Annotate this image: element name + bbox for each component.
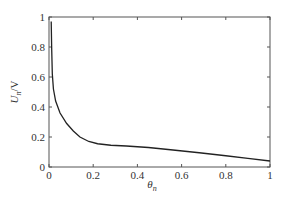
x-tick-label: 0.6 [175, 169, 189, 181]
plot-area [49, 17, 270, 167]
x-axis-label: θn [147, 178, 156, 193]
y-tick-label: 0.4 [31, 101, 45, 113]
x-tick-label: 0 [46, 169, 52, 181]
x-tick-label: 0.4 [131, 169, 145, 181]
y-tick-label: 1 [40, 11, 46, 23]
line-chart: 00.20.40.60.81 00.20.40.60.81 θn Un/V [0, 0, 285, 203]
x-tick-label: 0.2 [86, 169, 100, 181]
y-tick-label: 0 [40, 161, 46, 173]
y-tick-label: 0.2 [31, 131, 45, 143]
y-tick-label: 0.6 [31, 71, 45, 83]
x-tick-label: 1 [267, 169, 273, 181]
y-tick-label: 0.8 [31, 41, 45, 53]
x-tick-label: 0.8 [219, 169, 233, 181]
y-axis-label: Un/V [8, 80, 23, 103]
